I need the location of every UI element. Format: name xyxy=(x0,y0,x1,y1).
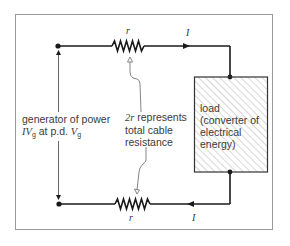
top-current-label: I xyxy=(186,27,189,38)
cable-label-line3: resistance xyxy=(125,136,187,148)
bottom-current-arrow-icon xyxy=(187,201,194,207)
generator-label-line1: generator of power xyxy=(22,113,110,125)
load-label-line2: (converter of xyxy=(200,114,259,126)
generator-label: generator of power IVg at p.d. Vg xyxy=(22,113,110,141)
load-label-line3: electrical xyxy=(200,126,259,138)
bottom-resistor-icon xyxy=(115,199,150,209)
leader-arrow-top-icon xyxy=(128,57,133,62)
bottom-resistor-label: r xyxy=(129,212,133,223)
bottom-wire xyxy=(59,172,230,209)
load-label-line1: load xyxy=(200,102,259,114)
top-resistor-label: r xyxy=(126,25,130,36)
top-resistor-icon xyxy=(112,41,144,51)
leader-arrow-bottom-icon xyxy=(135,189,140,194)
voltage-subscript: g xyxy=(77,131,81,138)
top-terminal-dot xyxy=(55,43,60,48)
top-current-arrow-icon xyxy=(183,43,190,49)
load-label-line4: energy) xyxy=(200,138,259,150)
load-bottom-junction xyxy=(228,170,233,175)
cable-label-symbol: 2r xyxy=(125,112,134,123)
load-label: load (converter of electrical energy) xyxy=(200,102,259,150)
top-wire xyxy=(58,41,230,77)
power-symbol: IV xyxy=(22,126,32,137)
cable-resistance-label: 2r represents total cable resistance xyxy=(125,111,187,148)
cable-label-line1-rest: represents xyxy=(134,111,187,123)
bottom-current-label: I xyxy=(192,212,195,223)
bottom-terminal-dot xyxy=(56,201,61,206)
pd-text: at p.d. xyxy=(36,125,71,137)
cable-label-line2: total cable xyxy=(125,124,187,136)
arrowhead-down-icon xyxy=(56,195,61,200)
arrowhead-up-icon xyxy=(56,50,61,55)
